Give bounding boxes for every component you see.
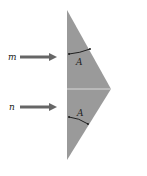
- ray-n-label: n: [9, 102, 15, 112]
- prism-diagram: m n A A: [0, 0, 147, 176]
- angle-label-lower: A: [76, 108, 84, 118]
- angle-label-upper: A: [75, 57, 83, 67]
- prism: [67, 10, 111, 160]
- ray-m-label: m: [8, 52, 17, 62]
- ray-n-arrow: [20, 103, 57, 111]
- ray-m-arrow: [20, 53, 57, 61]
